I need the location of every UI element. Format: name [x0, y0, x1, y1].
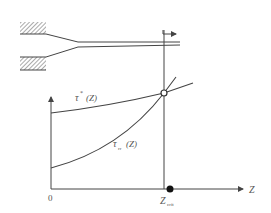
tau-star-symbol: τ [75, 92, 79, 103]
tau-rr-symbol: τ [113, 138, 117, 149]
x-axis-label: Z [249, 184, 255, 195]
tau-rr-argument: (Z) [126, 139, 137, 149]
origin-label: 0 [48, 193, 53, 203]
spinneret [20, 22, 46, 70]
tau-star-argument: (Z) [86, 93, 97, 103]
tau-star-label: τ * (Z) [75, 90, 97, 103]
axes: 0 Z [48, 97, 255, 203]
die-block-top [20, 22, 46, 34]
z-crit-subscript: crit [167, 202, 174, 207]
tau-rr-subscript: rr [118, 146, 122, 151]
flow-direction-arrow [163, 30, 176, 34]
filament-lower-edge [46, 45, 180, 57]
fiber-stress-diagram: 0 Z τ * (Z) τ rr (Z) Z crit [0, 0, 271, 213]
tau-star-superscript: * [80, 90, 83, 96]
z-crit-label: Z crit [160, 195, 174, 207]
tau-rr-curve [51, 77, 176, 168]
filament-upper-edge [46, 34, 180, 42]
die-block-bottom [20, 57, 46, 70]
tau-rr-label: τ rr (Z) [113, 138, 137, 151]
filament [46, 34, 180, 57]
z-crit-main: Z [160, 195, 166, 206]
critical-point-dot [167, 186, 174, 193]
tau-star-curve [51, 83, 193, 113]
intersection-open-circle [161, 90, 167, 96]
